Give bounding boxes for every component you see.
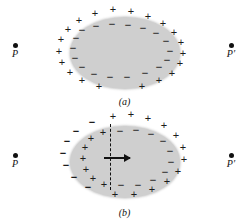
charge-minus: −: [125, 20, 131, 31]
charge-plus: +: [83, 164, 89, 175]
charge-plus: +: [112, 189, 118, 200]
charge-plus: +: [181, 154, 187, 165]
field-point-label-p: P: [4, 49, 26, 59]
charge-minus: −: [79, 25, 85, 36]
charge-plus: +: [58, 34, 64, 45]
field-point-label-p: P: [4, 159, 26, 169]
charge-minus: −: [148, 129, 154, 140]
charge-minus: −: [142, 68, 148, 79]
charge-minus: −: [133, 125, 139, 136]
charge-minus: −: [164, 55, 170, 66]
field-point-p-prime-b: P′: [220, 153, 242, 169]
charge-plus: +: [96, 81, 102, 92]
charge-minus: −: [168, 157, 174, 168]
charge-plus: +: [110, 4, 116, 15]
charge-minus: −: [118, 180, 124, 191]
charge-plus: +: [92, 8, 98, 19]
charge-plus: +: [160, 18, 166, 29]
charge-plus: +: [128, 109, 134, 120]
charge-plus: +: [177, 58, 183, 69]
charge-minus: −: [63, 160, 69, 171]
charge-plus: +: [145, 11, 151, 22]
charge-plus: +: [110, 111, 116, 122]
charge-minus: −: [117, 126, 123, 137]
charge-plus: +: [59, 57, 65, 68]
charge-minus: −: [60, 148, 66, 159]
charge-plus: +: [180, 142, 186, 153]
physics-figure: P P′ + + + + + + + + + + + + + + + + + +…: [0, 0, 249, 222]
charge-plus: +: [161, 120, 167, 131]
charge-plus: +: [79, 75, 85, 86]
charge-minus: −: [107, 72, 113, 83]
panel-caption-a: (a): [0, 96, 249, 107]
charge-minus: −: [91, 69, 97, 80]
charge-minus: −: [71, 172, 77, 183]
field-point-p-prime-a: P′: [220, 43, 242, 59]
charge-minus: −: [79, 62, 85, 73]
charge-plus: +: [90, 173, 96, 184]
charge-minus: −: [89, 117, 95, 128]
charge-plus: +: [149, 184, 155, 195]
charge-minus: −: [64, 136, 70, 147]
charge-minus: −: [160, 136, 166, 147]
charge-plus: +: [175, 166, 181, 177]
field-point-p-a: P: [4, 43, 26, 59]
charge-plus: +: [171, 27, 177, 38]
charge-plus: +: [131, 189, 137, 200]
panel-b: P P′ − − − − − − − + + + + + + + − − − −…: [0, 108, 249, 222]
charge-minus: −: [153, 28, 159, 39]
displacement-arrow: [104, 157, 130, 159]
charge-plus: +: [128, 6, 134, 17]
charge-plus: +: [145, 113, 151, 124]
charge-minus: −: [109, 19, 115, 30]
charge-minus: −: [140, 23, 146, 34]
charge-plus: +: [156, 75, 162, 86]
charge-minus: −: [124, 72, 130, 83]
field-point-label-p-prime: P′: [220, 49, 242, 59]
panel-a: P P′ + + + + + + + + + + + + + + + + + +…: [0, 0, 249, 111]
charge-minus: −: [156, 62, 162, 73]
charge-plus: +: [169, 68, 175, 79]
charge-plus: +: [139, 81, 145, 92]
charge-minus: −: [93, 21, 99, 32]
charge-plus: +: [67, 67, 73, 78]
panel-caption-b: (b): [0, 207, 249, 218]
field-point-label-p-prime: P′: [220, 159, 242, 169]
charge-minus: −: [72, 53, 78, 64]
charge-plus: +: [100, 127, 106, 138]
charge-plus: +: [173, 130, 179, 141]
charge-plus: +: [65, 24, 71, 35]
field-point-p-b: P: [4, 153, 26, 169]
charge-minus: −: [73, 126, 79, 137]
charge-plus: +: [164, 176, 170, 187]
charge-plus: +: [101, 179, 107, 190]
charge-plus: +: [88, 133, 94, 144]
